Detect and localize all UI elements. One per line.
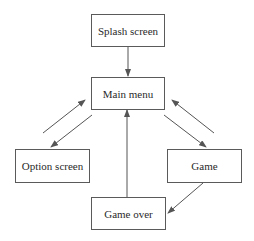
node-game-over: Game over xyxy=(91,197,166,230)
node-main-menu: Main menu xyxy=(91,77,165,110)
node-option-screen: Option screen xyxy=(15,149,90,183)
flow-diagram: Splash screen Main menu Option screen Ga… xyxy=(0,0,254,241)
node-splash-screen: Splash screen xyxy=(91,14,165,47)
node-label: Main menu xyxy=(103,88,153,100)
node-label: Game xyxy=(191,160,217,172)
edge-option-to-main xyxy=(43,100,85,133)
node-game: Game xyxy=(167,149,242,183)
edge-main-to-option xyxy=(51,115,92,147)
edge-game-to-gameover xyxy=(168,183,203,213)
edge-game-to-main xyxy=(172,100,214,133)
node-label: Option screen xyxy=(22,160,83,172)
edge-main-to-game xyxy=(164,115,206,147)
node-label: Splash screen xyxy=(98,25,158,37)
node-label: Game over xyxy=(104,208,153,220)
